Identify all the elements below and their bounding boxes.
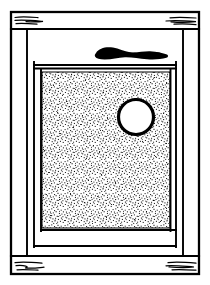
circular-hole	[119, 100, 154, 135]
center-panel	[42, 72, 170, 228]
figure-canvas: Cabinet door line drawing Black-and-whit…	[0, 0, 210, 285]
panel-stipple-fill	[42, 72, 170, 228]
cabinet-door-drawing: Cabinet door line drawing Black-and-whit…	[0, 0, 210, 285]
